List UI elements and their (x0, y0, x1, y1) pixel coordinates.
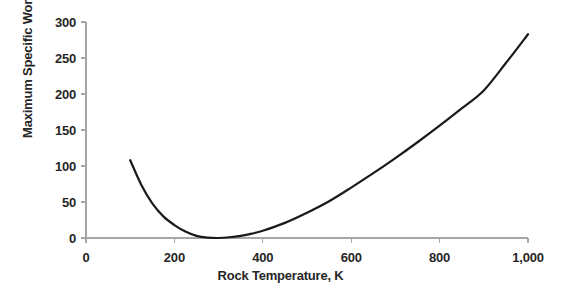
x-tick-label: 400 (252, 250, 273, 265)
x-tick-label: 600 (341, 250, 362, 265)
y-tick-label: 200 (0, 87, 76, 102)
y-tick-label: 0 (0, 231, 76, 246)
y-tick-label: 150 (0, 123, 76, 138)
y-tick-label: 100 (0, 159, 76, 174)
x-tick-label: 0 (82, 250, 89, 265)
x-axis-title: Rock Temperature, K (0, 268, 561, 283)
chart-figure: 050100150200250300 02004006008001,000 Ro… (0, 0, 561, 294)
y-axis-title: Maximum Specific Work, kJ/kg (20, 0, 35, 138)
x-tick-label: 200 (164, 250, 185, 265)
x-tick-label: 1,000 (512, 250, 544, 265)
y-tick-label: 50 (0, 195, 76, 210)
x-tick-label: 800 (429, 250, 450, 265)
y-tick-label: 300 (0, 15, 76, 30)
data-series-line-0 (130, 34, 528, 238)
y-tick-label: 250 (0, 51, 76, 66)
